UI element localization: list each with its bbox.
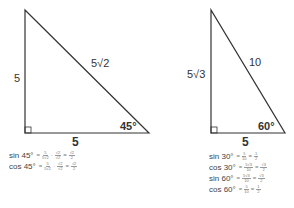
formula-cos30: cos 30°= 5√310= √32 xyxy=(209,162,268,173)
right-formulas: sin 30°= 510= 12 cos 30°= 5√310= √32 sin… xyxy=(209,151,268,195)
left-vertical-leg-label: 5 xyxy=(14,73,20,84)
right-vertical-leg-label: 5√3 xyxy=(187,69,205,80)
right-hypotenuse-label: 10 xyxy=(249,57,261,68)
left-right-angle-marker xyxy=(25,127,31,133)
formula-sin30: sin 30°= 510= 12 xyxy=(209,151,268,162)
formula-cos60: cos 60°= 510= 12 xyxy=(209,184,268,195)
left-horizontal-leg-label: 5 xyxy=(72,136,79,148)
left-hypotenuse-label: 5√2 xyxy=(91,58,109,69)
formula-sin60: sin 60°= 5√310= √32 xyxy=(209,173,268,184)
formula-cos45: cos 45°= 55√2· √2√2= √22 xyxy=(9,161,78,172)
right-angle-label: 60° xyxy=(258,121,275,132)
left-triangle xyxy=(25,10,149,133)
right-horizontal-leg-label: 5 xyxy=(242,136,249,148)
right-triangle xyxy=(211,10,285,133)
left-formulas: sin 45°= 55√2· √2√2= √22 cos 45°= 55√2· … xyxy=(9,150,78,172)
formula-sin45: sin 45°= 55√2· √2√2= √22 xyxy=(9,150,78,161)
left-angle-label: 45° xyxy=(120,121,137,132)
right-right-angle-marker xyxy=(211,127,217,133)
